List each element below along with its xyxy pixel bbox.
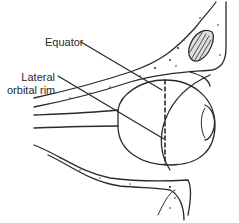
- eye-orbit-diagram: Equator Lateral orbital rim: [0, 0, 239, 223]
- diagram-drawing: [0, 0, 239, 223]
- label-lateral: Lateral: [11, 71, 55, 84]
- label-equator: Equator: [45, 36, 84, 49]
- lower-orbital-bone: [34, 145, 190, 220]
- label-orbital-rim: orbital rim: [7, 84, 55, 97]
- optic-nerve: [34, 110, 118, 128]
- eyeball: [118, 80, 215, 165]
- rim-leader: [58, 76, 164, 139]
